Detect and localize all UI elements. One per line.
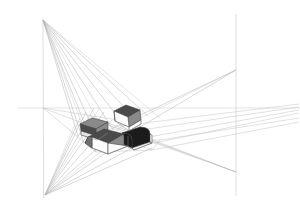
perspective-drawing [0, 0, 300, 216]
house-back-right [114, 105, 141, 131]
drawing-canvas: Three-Point Perspective Construction Clu… [0, 0, 300, 216]
